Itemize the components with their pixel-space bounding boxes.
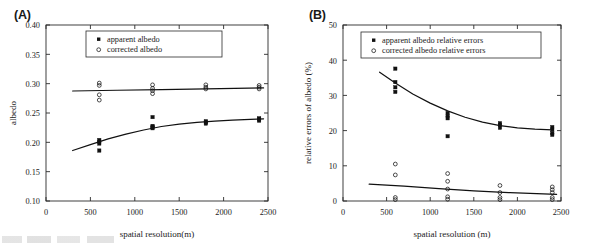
data-point-apparent [446,117,449,120]
data-point-apparent [98,142,101,145]
legend-marker-filled-square-icon [97,38,100,41]
data-point-corrected [97,98,101,102]
x-tick-label: 2500 [260,208,277,217]
fit-curve [380,72,553,130]
data-point-apparent [394,67,397,70]
x-tick-label: 500 [380,208,392,217]
data-point-apparent [498,126,501,129]
fit-curve [73,88,264,91]
y-tick-label: 40 [329,57,337,66]
data-point-corrected [393,173,397,177]
data-point-corrected [97,93,101,97]
x-tick-label: 1500 [171,208,188,217]
x-tick-label: 2000 [509,208,526,217]
y-tick-label: 0.35 [25,51,40,60]
data-point-apparent [151,127,154,130]
data-point-apparent [551,133,554,136]
panel-b: (B) 0102030405005001000150020002500spati… [299,0,597,246]
legend-label: apparent albedo [107,35,160,44]
x-tick-label: 2500 [553,208,570,217]
data-point-corrected [446,179,450,183]
data-point-apparent [204,122,207,125]
y-tick-label: 20 [329,127,337,136]
panel-a-plot: 0.100.150.200.250.300.350.40050010001500… [0,0,298,246]
y-tick-label: 10 [329,162,337,171]
data-point-corrected [446,172,450,176]
fit-curve [369,184,556,194]
panel-a: (A) 0.100.150.200.250.300.350.4005001000… [0,0,298,246]
x-tick-label: 500 [84,208,96,217]
y-axis-label: albedo [8,101,18,125]
x-tick-label: 1000 [127,208,144,217]
figure-container: (A) 0.100.150.200.250.300.350.4005001000… [0,0,597,246]
x-tick-label: 0 [341,208,345,217]
x-tick-label: 0 [44,208,48,217]
y-tick-label: 0 [333,197,337,206]
x-axis-label: spatial resolution (m) [414,229,491,239]
data-point-apparent [394,80,397,83]
data-point-apparent [551,128,554,131]
y-tick-label: 0.30 [25,80,40,89]
legend-label: corrected albedo relative errors [382,46,485,55]
data-point-apparent [446,135,449,138]
caption-fragment [2,236,114,243]
x-axis-label: spatial resolution(m) [120,229,195,239]
y-tick-label: 0.20 [25,139,40,148]
legend-label: apparent albedo relative errors [382,36,483,45]
y-tick-label: 0.10 [25,197,40,206]
data-point-apparent [394,86,397,89]
x-tick-label: 1500 [466,208,483,217]
panel-b-plot: 0102030405005001000150020002500spatial r… [299,0,597,246]
y-tick-label: 30 [329,92,337,101]
legend-marker-filled-square-icon [372,39,375,42]
x-tick-label: 2000 [215,208,232,217]
data-point-apparent [394,90,397,93]
data-point-corrected [97,84,101,88]
x-tick-label: 1000 [422,208,439,217]
legend-label: corrected albedo [107,45,162,54]
data-point-corrected [498,184,502,188]
data-point-corrected [393,162,397,166]
fit-curve [73,119,264,151]
y-tick-label: 50 [329,21,337,30]
data-point-apparent [98,149,101,152]
y-tick-label: 0.25 [25,109,40,118]
y-tick-label: 0.15 [25,168,40,177]
data-point-apparent [151,115,154,118]
y-tick-label: 0.40 [25,21,40,30]
data-point-apparent [257,119,260,122]
y-axis-label: relative errors of albedo (%) [303,62,313,164]
